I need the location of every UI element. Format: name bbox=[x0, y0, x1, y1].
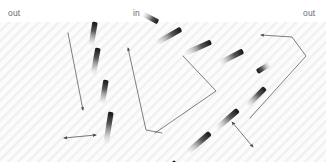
panel-background bbox=[0, 0, 326, 162]
region-label-out-right: out bbox=[303, 9, 315, 18]
region-label-out-left: out bbox=[8, 9, 20, 18]
diagram-canvas bbox=[0, 0, 326, 162]
flux-boundary-diagram: out in out bbox=[0, 0, 326, 162]
region-label-in-middle: in bbox=[133, 9, 140, 18]
